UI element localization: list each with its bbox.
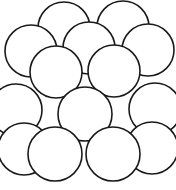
sphere-front-4 (86, 127, 140, 181)
sphere-packing-figure (0, 0, 176, 190)
sphere-front-3 (28, 127, 82, 181)
sphere-packing-diagram (0, 0, 176, 190)
